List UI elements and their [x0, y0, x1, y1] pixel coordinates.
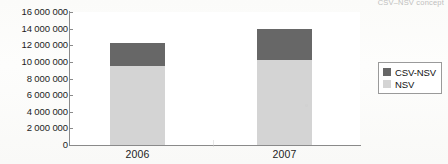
bar-2006 — [110, 43, 165, 145]
y-axis-tick-label: 16 000 000 — [2, 7, 68, 17]
legend-item-csv-nsv[interactable]: CSV-NSV — [383, 66, 436, 78]
x-axis-label-2006: 2006 — [90, 148, 185, 160]
legend-swatch-icon — [383, 80, 391, 88]
x-axis-line — [69, 145, 361, 146]
x-axis-label-2007: 2007 — [237, 148, 332, 160]
y-axis-tick-label: 0 — [2, 140, 68, 150]
legend-swatch-icon — [383, 68, 391, 76]
legend-label: NSV — [395, 79, 414, 90]
bar-chart-figure: CSV–NSV concept 16 000 00014 000 00012 0… — [0, 0, 448, 164]
bar-segment-nsv-2006 — [110, 66, 165, 145]
scan-artifact-mark — [213, 140, 214, 147]
bar-segment-nsv-2007 — [257, 60, 312, 145]
legend-label: CSV-NSV — [395, 67, 436, 78]
y-axis-tick-label: 4 000 000 — [2, 107, 68, 117]
y-axis-labels: 16 000 00014 000 00012 000 00010 000 000… — [0, 0, 68, 164]
bar-segment-csv-nsv-2007 — [257, 29, 312, 61]
bar-segment-csv-nsv-2006 — [110, 43, 165, 66]
chart-legend: CSV-NSVNSV — [378, 62, 442, 94]
y-axis-tick-label: 12 000 000 — [2, 40, 68, 50]
y-axis-tick-label: 6 000 000 — [2, 90, 68, 100]
y-axis-tick-label: 10 000 000 — [2, 57, 68, 67]
scan-artifact-dot — [305, 104, 308, 107]
y-axis-tick-label: 8 000 000 — [2, 74, 68, 84]
y-axis-line — [69, 11, 70, 146]
bar-2007 — [257, 29, 312, 145]
legend-item-nsv[interactable]: NSV — [383, 78, 436, 90]
y-axis-tick-label: 14 000 000 — [2, 24, 68, 34]
clipped-header-text: CSV–NSV concept — [378, 0, 444, 7]
y-axis-tick-label: 2 000 000 — [2, 123, 68, 133]
